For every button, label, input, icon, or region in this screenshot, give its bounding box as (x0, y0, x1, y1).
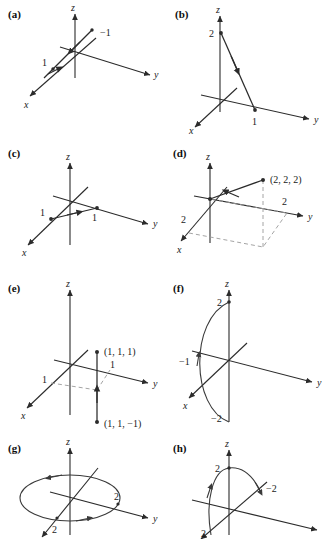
panel-c-tag: (c) (8, 147, 21, 160)
panel-d-tag: (d) (173, 147, 187, 160)
label-y1-e: 1 (110, 359, 115, 370)
label-upper-point-e: (1, 1, 1) (104, 346, 136, 358)
point-222-d (261, 178, 265, 182)
z-axis-label-b: z (215, 4, 220, 15)
panel-b: (b) z y x 2 1 (167, 0, 333, 135)
label-x2-g: 2 (52, 524, 57, 535)
label-lower-point-e: (1, 1, −1) (104, 418, 141, 430)
x-axis-a (30, 38, 96, 96)
panel-f: (f) z y x 2 −1 −2 (167, 270, 333, 430)
label-z2-b: 2 (209, 28, 214, 39)
point-x2-g (55, 516, 58, 519)
panel-b-diagram: (b) z y x 2 1 (167, 0, 333, 135)
panel-h-diagram: (h) z 2 −2 2 (167, 430, 333, 539)
panel-h: (h) z 2 −2 2 (167, 430, 333, 539)
y-axis-label-b: y (313, 114, 319, 125)
y-axis-label-f: y (316, 377, 322, 388)
panel-a-tag: (a) (8, 8, 21, 21)
origin-point-d (208, 197, 212, 201)
x-axis-c (28, 187, 88, 245)
panel-f-diagram: (f) z y x 2 −1 −2 (167, 270, 333, 430)
z-axis-label-h: z (224, 438, 229, 449)
label-z2-h: 2 (215, 463, 220, 474)
panel-e-diagram: (e) z y x (1, 1, 1) (1, 1, −1) 1 1 (0, 270, 166, 430)
y-axis-label-e: y (152, 378, 158, 389)
x-axis-label-a: x (23, 99, 29, 110)
point-y1-b (253, 108, 257, 112)
x-axis-label-c: x (21, 247, 27, 258)
projection-box-d (189, 199, 287, 247)
panel-e: (e) z y x (1, 1, 1) (1, 1, −1) 1 1 (0, 270, 166, 430)
y-axis-a (60, 47, 150, 75)
y-axis-h (192, 500, 317, 530)
label-x2-d: 2 (181, 214, 186, 225)
y-axis-label-c: y (152, 218, 158, 229)
x-axis-e (27, 350, 88, 408)
label-point-d: (2, 2, 2) (270, 174, 302, 186)
y-axis-label-g: y (152, 513, 158, 524)
panel-g: (g) z y 2 2 (0, 430, 166, 539)
y-axis-label-a: y (153, 69, 159, 80)
point-lower-e (95, 420, 99, 424)
direction-arrow-d (225, 191, 239, 197)
z-axis-label-c: z (65, 151, 70, 162)
panel-g-tag: (g) (8, 442, 21, 455)
panel-d: (d) z y x (2, 2, 2) 2 2 (167, 135, 333, 270)
figure-grid: (a) z y x −1 1 (0, 0, 333, 539)
panel-a-diagram: (a) z y x −1 1 (0, 0, 166, 135)
label-neg2-h: −2 (266, 483, 277, 494)
x-axis-b (195, 88, 237, 127)
point-upper-e (95, 350, 99, 354)
x-axis-label-f: x (182, 400, 188, 411)
z-axis-label-d: z (205, 151, 210, 162)
x-axis-label-b: x (188, 125, 194, 135)
point-y1-c (95, 206, 99, 210)
label-neg-one-a: −1 (100, 27, 111, 38)
label-xneg1-f: −1 (179, 356, 190, 367)
x-axis-label-d: x (176, 244, 182, 255)
point-z2-h (227, 466, 230, 469)
y-axis-c (53, 196, 148, 224)
x-axis-label-e: x (20, 410, 26, 421)
label-x1-e: 1 (42, 374, 47, 385)
z-axis-label-a: z (70, 2, 75, 13)
label-z2-f: 2 (217, 297, 222, 308)
point-z2-f (227, 300, 231, 304)
panel-h-tag: (h) (173, 442, 187, 455)
direction-arrow-c (67, 212, 80, 215)
panel-c-diagram: (c) z y x 1 1 (0, 135, 166, 270)
y-axis-label-d: y (307, 211, 313, 222)
arc-f (200, 302, 229, 422)
point-y2-g (116, 502, 119, 505)
z-axis-label-g: z (65, 436, 70, 447)
z-axis-label-e: z (65, 278, 70, 289)
panel-d-diagram: (d) z y x (2, 2, 2) 2 2 (167, 135, 333, 270)
panel-a: (a) z y x −1 1 (0, 0, 166, 135)
direction-line-a (44, 30, 92, 78)
panel-f-tag: (f) (173, 282, 184, 295)
dash-x-guide-e (51, 383, 97, 390)
label-y2-g: 2 (114, 491, 119, 502)
point-x1-c (49, 217, 53, 221)
x-axis-f (189, 343, 247, 398)
label-y1-b: 1 (252, 116, 257, 127)
label-x2-h: 2 (201, 528, 206, 539)
panel-b-tag: (b) (175, 8, 189, 21)
panel-e-tag: (e) (8, 282, 21, 295)
y-axis-e (54, 360, 148, 383)
panel-c: (c) z y x 1 1 (0, 135, 166, 270)
direction-arrow-f (197, 354, 199, 366)
label-zneg2-f: −2 (211, 413, 222, 424)
direction-arrow-b (231, 56, 238, 72)
label-x1-c: 1 (40, 207, 45, 218)
point-z2-b (219, 31, 223, 35)
z-axis-label-f: z (224, 278, 229, 289)
point-neg-one-a (90, 28, 93, 31)
label-y1-c: 1 (92, 212, 97, 223)
panel-g-diagram: (g) z y 2 2 (0, 430, 166, 539)
point-one-a (51, 67, 54, 70)
y-axis-g (50, 492, 148, 518)
label-one-a: 1 (42, 57, 47, 68)
label-y2-d: 2 (282, 196, 287, 207)
